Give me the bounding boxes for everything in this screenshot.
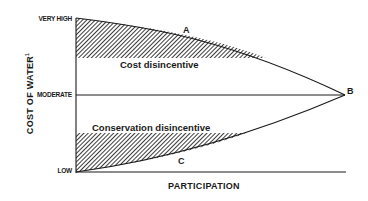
conservation-disincentive-label: Conservation disincentive: [92, 122, 210, 133]
x-axis-label: PARTICIPATION: [168, 181, 240, 191]
tick-very-high: VERY HIGH: [12, 15, 72, 22]
y-axis-label-text: COST OF WATER: [25, 56, 35, 134]
tick-low: LOW: [12, 167, 72, 174]
tick-moderate: MODERATE: [12, 91, 72, 98]
point-a-label: A: [183, 25, 190, 35]
point-c-label: C: [178, 156, 185, 166]
conservation-disincentive-hatch: [76, 133, 246, 172]
y-axis-label: COST OF WATER1: [24, 39, 35, 149]
y-axis-footnote: 1: [24, 53, 30, 56]
point-b-label: B: [347, 86, 354, 96]
cost-disincentive-label: Cost disincentive: [120, 59, 199, 70]
